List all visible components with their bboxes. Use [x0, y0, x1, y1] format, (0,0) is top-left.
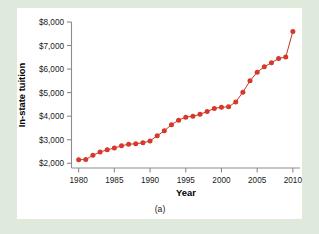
- figure-root: $2,000$3,000$4,000$5,000$6,000$7,000$8,0…: [0, 0, 319, 234]
- data-point: 1999: $4,330: [212, 106, 217, 111]
- x-axis-ticks: [79, 168, 293, 173]
- x-axis-tick-label: 2010: [284, 176, 303, 185]
- y-axis-ticks: [67, 22, 72, 163]
- x-axis-tick-label: 2005: [248, 176, 267, 185]
- data-point: 1981: $2,160: [83, 157, 88, 162]
- data-point: 2010: $7,600: [290, 29, 295, 34]
- x-axis-tick-label: 1990: [141, 176, 160, 185]
- line-chart: $2,000$3,000$4,000$5,000$6,000$7,000$8,0…: [0, 0, 319, 234]
- x-axis-tick-label: 1980: [70, 176, 89, 185]
- data-point: 1998: $4,200: [205, 109, 210, 114]
- data-point: 1997: $4,080: [198, 112, 203, 117]
- x-axis-tick-label: 1985: [105, 176, 124, 185]
- data-point: 1987: $2,810: [126, 142, 131, 147]
- data-point: 2009: $6,510: [283, 55, 288, 60]
- data-point: 2005: $5,870: [255, 70, 260, 75]
- y-axis-tick-label: $4,000: [39, 112, 64, 121]
- y-axis-tick-label: $8,000: [39, 18, 64, 27]
- data-point: 1991: $3,170: [155, 133, 160, 138]
- x-axis-title: Year: [176, 187, 196, 198]
- data-point: 1984: $2,570: [105, 147, 110, 152]
- axes: [72, 22, 301, 168]
- data-point: 1995: $3,960: [183, 115, 188, 120]
- data-point: 1980: $2,150: [76, 157, 81, 162]
- y-axis-tick-label: $5,000: [39, 89, 64, 98]
- chart-area: $2,000$3,000$4,000$5,000$6,000$7,000$8,0…: [0, 0, 319, 234]
- data-point: 2001: $4,400: [226, 104, 231, 109]
- data-point: 1985: $2,650: [112, 145, 117, 150]
- data-point: 2003: $5,020: [240, 90, 245, 95]
- data-series-line: [79, 31, 293, 159]
- x-axis-tick-label: 1995: [177, 176, 196, 185]
- y-axis-tick-label: $2,000: [39, 159, 64, 168]
- data-point: 1988: $2,830: [133, 141, 138, 146]
- data-point: 1996: $4,000: [190, 114, 195, 119]
- y-axis-tick-labels: $2,000$3,000$4,000$5,000$6,000$7,000$8,0…: [39, 18, 64, 168]
- data-point: 2004: $5,500: [248, 78, 253, 83]
- figure-caption: (a): [155, 204, 166, 214]
- y-axis-tick-label: $6,000: [39, 65, 64, 74]
- data-point: 1982: $2,340: [90, 153, 95, 158]
- data-point: 1986: $2,740: [119, 143, 124, 148]
- y-axis-tick-label: $3,000: [39, 136, 64, 145]
- y-axis-tick-label: $7,000: [39, 42, 64, 51]
- data-point: 1992: $3,380: [162, 128, 167, 133]
- data-point: 1993: $3,640: [169, 122, 174, 127]
- x-axis-tick-labels: 1980198519901995200020052010: [70, 176, 303, 185]
- x-axis-tick-label: 2000: [212, 176, 231, 185]
- data-point: 1994: $3,830: [176, 118, 181, 123]
- y-axis-title: In-state tuition: [16, 62, 27, 127]
- data-point: 2002: $4,600: [233, 100, 238, 105]
- data-point: 1989: $2,870: [140, 140, 145, 145]
- data-point: 2006: $6,100: [262, 64, 267, 69]
- data-series-points: 1980: $2,1501981: $2,1601982: $2,3401983…: [76, 29, 295, 162]
- data-point: 2007: $6,270: [269, 60, 274, 65]
- data-point: 1990: $2,950: [148, 138, 153, 143]
- data-point: 1983: $2,480: [98, 149, 103, 154]
- data-point: 2000: $4,380: [219, 105, 224, 110]
- data-point: 2008: $6,450: [276, 56, 281, 61]
